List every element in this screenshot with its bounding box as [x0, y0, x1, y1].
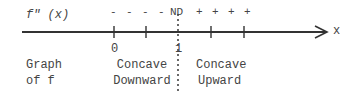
right-region-line1: Concave: [196, 58, 246, 72]
sign-minus: -: [110, 6, 117, 18]
sign-minus: -: [142, 6, 149, 18]
tick-label-one: 1: [175, 42, 182, 56]
sign-plus: +: [228, 6, 235, 18]
f-double-prime-label: f" (x): [26, 8, 69, 22]
sign-minus: -: [158, 6, 165, 18]
not-defined-label: ND: [170, 6, 183, 18]
sign-plus: +: [244, 6, 251, 18]
tick-label-zero: 0: [111, 42, 118, 56]
sign-minus: -: [126, 6, 133, 18]
graph-label-line2: of f: [26, 74, 55, 88]
x-axis-label: x: [333, 24, 340, 38]
sign-plus: +: [212, 6, 219, 18]
graph-label-line1: Graph: [26, 58, 62, 72]
left-region-line2: Downward: [110, 74, 174, 88]
sign-plus: +: [196, 6, 203, 18]
right-region-line2: Upward: [198, 74, 241, 88]
left-region-line1: Concave: [110, 58, 174, 72]
